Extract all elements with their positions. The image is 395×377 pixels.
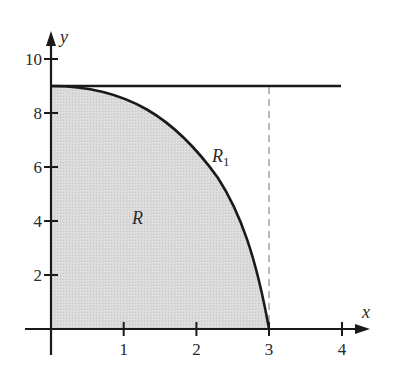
y-tick-label-10: 10: [25, 50, 42, 69]
region-label-r1: R1: [211, 146, 230, 169]
y-axis-arrow-icon: [46, 31, 56, 46]
shaded-region-r: [51, 86, 269, 329]
region-label-r: R: [131, 208, 143, 228]
y-tick-label-8: 8: [34, 104, 43, 123]
y-tick-label-4: 4: [34, 212, 43, 231]
region-diagram: 1 2 3 4 2 4 6 8 10 x y R R1: [0, 0, 395, 377]
y-tick-label-2: 2: [34, 266, 43, 285]
x-tick-label-2: 2: [192, 340, 201, 359]
region-label-r1-main: R: [211, 146, 223, 166]
y-axis-label: y: [58, 27, 68, 47]
x-tick-label-4: 4: [338, 340, 347, 359]
region-label-r1-subscript: 1: [223, 154, 230, 169]
x-tick-label-1: 1: [119, 340, 128, 359]
y-tick-label-6: 6: [34, 158, 43, 177]
x-axis-label: x: [361, 302, 370, 322]
x-axis-arrow-icon: [355, 324, 370, 334]
x-tick-label-3: 3: [265, 340, 274, 359]
